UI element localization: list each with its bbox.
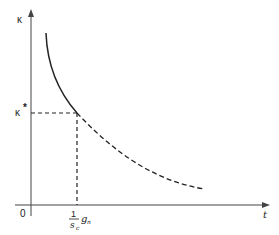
origin-label: 0 (20, 208, 26, 219)
y-axis-label: κ (17, 14, 23, 25)
x-axis-label: t (263, 209, 268, 220)
fraction-denominator: s (70, 220, 75, 230)
dashed-curve (77, 113, 204, 189)
diagram-canvas: κ t 0 κ * 1 s c g n (0, 0, 279, 235)
kappa-star-superscript: * (23, 102, 27, 113)
factor-subscript: n (87, 218, 91, 225)
solid-curve (46, 33, 77, 113)
fraction-numerator: 1 (71, 209, 76, 219)
y-axis-arrow-icon (28, 9, 34, 17)
kappa-star-label: κ (15, 107, 21, 118)
fraction-denominator-subscript: c (76, 224, 80, 231)
x-axis-arrow-icon (262, 202, 270, 208)
